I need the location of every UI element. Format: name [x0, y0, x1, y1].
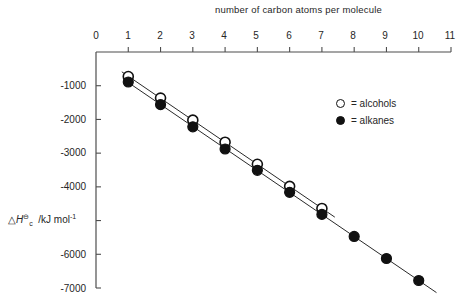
data-point-alkanes-3: [188, 122, 198, 132]
data-point-alkanes-6: [285, 187, 295, 197]
data-point-alkanes-9: [381, 254, 391, 264]
data-point-alkanes-2: [156, 100, 166, 110]
data-point-alkanes-1: [123, 77, 133, 87]
plot-canvas: [0, 0, 464, 301]
tick-marks: [96, 47, 451, 288]
data-point-alkanes-8: [349, 231, 359, 241]
data-point-alkanes-10: [414, 276, 424, 286]
data-point-alkanes-5: [252, 165, 262, 175]
data-point-alkanes-4: [220, 144, 230, 154]
axis-lines: [96, 52, 451, 288]
chart-figure: number of carbon atoms per molecule 0 1 …: [0, 0, 464, 301]
data-point-alkanes-7: [317, 209, 327, 219]
